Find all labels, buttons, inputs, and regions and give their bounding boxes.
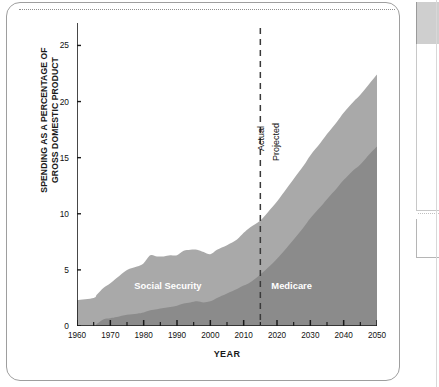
x-tick-label: 2050 <box>357 331 397 340</box>
gutter-right-edge <box>436 0 437 387</box>
series-label-medicare: Medicare <box>271 280 312 291</box>
y-tick-label: 10 <box>43 209 69 219</box>
plot-area: 0510152025 19601970198019902000201020202… <box>77 23 377 326</box>
y-axis-title-line2: GROSS DOMESTIC PRODUCT <box>50 57 60 183</box>
chart-plot-wrapper: SPENDING AS A PERCENTAGE OF GROSS DOMEST… <box>17 17 391 369</box>
card-top-divider <box>19 9 395 10</box>
divider-label-projected: Projected <box>271 123 281 161</box>
chart-card: SPENDING AS A PERCENTAGE OF GROSS DOMEST… <box>6 2 400 381</box>
right-side-panel-gutter <box>408 0 439 387</box>
series-areas <box>77 75 377 326</box>
y-tick-label: 20 <box>43 97 69 107</box>
y-tick-label: 0 <box>43 321 69 331</box>
x-axis-title: YEAR <box>77 349 377 359</box>
area-chart-svg <box>77 23 377 326</box>
divider-label-actual: Actual <box>256 126 266 151</box>
y-axis-title-line1: SPENDING AS A PERCENTAGE OF <box>39 47 49 192</box>
y-axis-title: SPENDING AS A PERCENTAGE OF GROSS DOMEST… <box>39 35 61 205</box>
series-label-social-security: Social Security <box>134 280 201 291</box>
y-tick-label: 15 <box>43 153 69 163</box>
y-tick-label: 5 <box>43 265 69 275</box>
y-tick-label: 25 <box>43 40 69 50</box>
screenshot-root: SPENDING AS A PERCENTAGE OF GROSS DOMEST… <box>0 0 439 387</box>
